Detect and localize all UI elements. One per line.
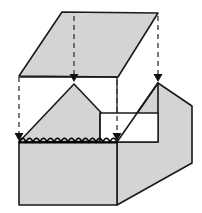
box-front-face	[19, 142, 117, 205]
figure-canvas	[0, 0, 202, 213]
inner-step-panel	[100, 113, 158, 142]
exploded-box-figure	[0, 0, 202, 213]
